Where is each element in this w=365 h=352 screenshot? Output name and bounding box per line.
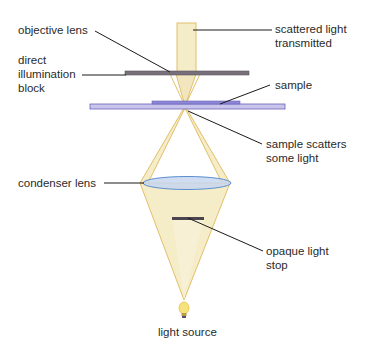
light-bulb-icon <box>179 302 189 318</box>
label-objective-lens: objective lens <box>18 23 88 37</box>
label-sample: sample <box>275 78 312 92</box>
label-light-source: light source <box>158 325 217 339</box>
leader-sample-scatters <box>188 111 262 144</box>
leader-sample <box>220 85 270 104</box>
leader-objective-lens <box>95 31 170 72</box>
label-condenser-lens: condenser lens <box>18 176 96 190</box>
light-cone-upper-right <box>184 106 230 183</box>
label-sample-scatters-some-light: sample scatters some light <box>266 137 347 165</box>
slide <box>90 104 285 109</box>
light-cone-upper-left <box>140 106 186 183</box>
label-opaque-light-stop: opaque light stop <box>266 244 329 272</box>
direct-illumination-block <box>125 71 249 75</box>
condenser-lens <box>143 177 231 190</box>
label-scattered-light-transmitted: scattered light transmitted <box>275 22 347 50</box>
label-direct-illumination-block: direct illumination block <box>18 53 76 95</box>
